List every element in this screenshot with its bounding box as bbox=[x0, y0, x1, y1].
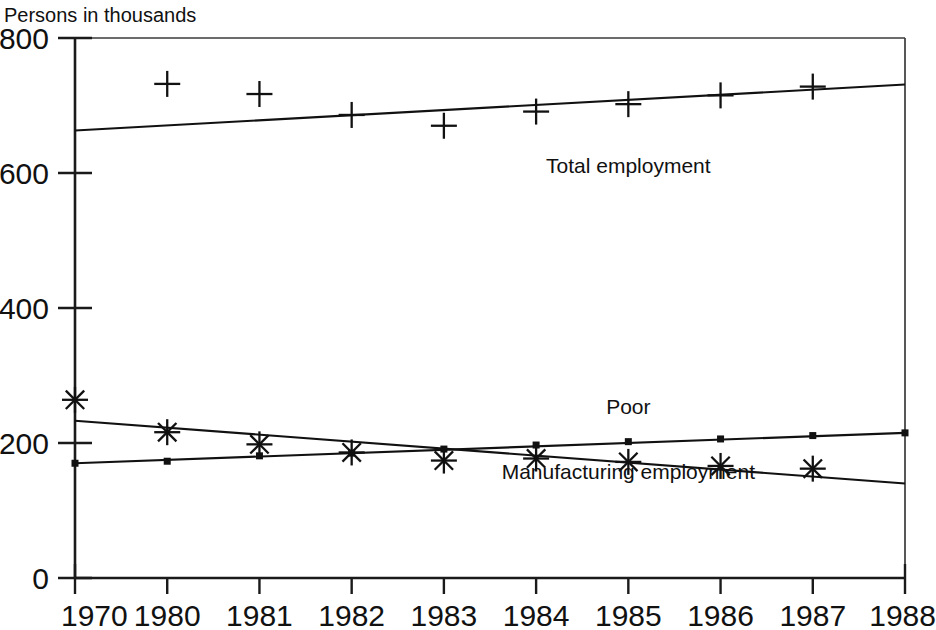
x-tick-label-1986: 1986 bbox=[687, 599, 754, 630]
y-axis-title: Persons in thousands bbox=[4, 4, 196, 26]
trend-lines bbox=[75, 85, 905, 484]
x-tick-label-1982: 1982 bbox=[318, 599, 385, 630]
chart-container: 8006004002000197019801981198219831984198… bbox=[0, 0, 936, 630]
y-tick-label-200: 200 bbox=[0, 427, 49, 460]
x-tick-label-1983: 1983 bbox=[411, 599, 478, 630]
trend-line-manufacturing-employment bbox=[75, 421, 905, 484]
trend-line-poor bbox=[75, 433, 905, 463]
x-tick-label-1980: 1980 bbox=[134, 599, 201, 630]
x-tick-label-1970: 1970 bbox=[61, 599, 128, 630]
marker-poor-1986 bbox=[717, 435, 724, 442]
trend-line-total-employment bbox=[75, 85, 905, 131]
marker-poor-1988 bbox=[902, 429, 909, 436]
data-markers bbox=[62, 71, 909, 482]
axis-ticks bbox=[58, 38, 905, 594]
marker-poor-1980 bbox=[164, 458, 171, 465]
marker-poor-1985 bbox=[625, 438, 632, 445]
y-tick-label-400: 400 bbox=[0, 292, 49, 325]
chart-canvas: 8006004002000197019801981198219831984198… bbox=[0, 0, 936, 630]
x-tick-label-1988: 1988 bbox=[869, 599, 936, 630]
series-label-manufacturing-employment: Manufacturing employment bbox=[502, 460, 755, 483]
y-tick-label-800: 800 bbox=[0, 22, 49, 55]
series-label-poor: Poor bbox=[606, 395, 650, 418]
y-tick-label-600: 600 bbox=[0, 157, 49, 190]
chart-text-layer: 8006004002000197019801981198219831984198… bbox=[0, 4, 936, 630]
marker-poor-1970 bbox=[72, 460, 79, 467]
x-tick-label-1987: 1987 bbox=[779, 599, 846, 630]
y-tick-label-0: 0 bbox=[32, 562, 49, 595]
x-tick-label-1981: 1981 bbox=[226, 599, 293, 630]
series-label-total-employment: Total employment bbox=[546, 154, 711, 177]
marker-poor-1987 bbox=[809, 432, 816, 439]
x-tick-label-1984: 1984 bbox=[503, 599, 570, 630]
plot-frame bbox=[75, 38, 905, 578]
x-tick-label-1985: 1985 bbox=[595, 599, 662, 630]
